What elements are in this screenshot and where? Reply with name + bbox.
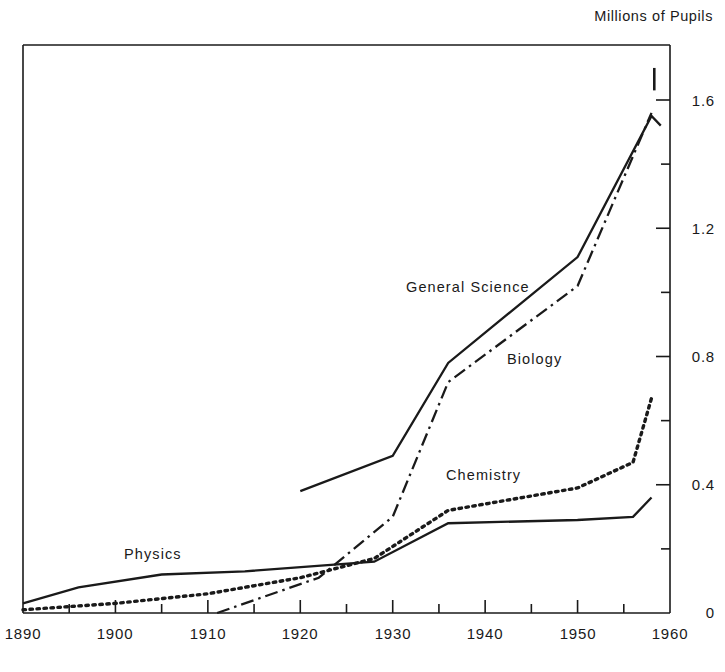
x-tick-label-1930: 1930	[375, 625, 412, 642]
x-tick-label-1900: 1900	[97, 625, 134, 642]
series-label-physics: Physics	[124, 546, 182, 562]
y-tick-label-1.6: 1.6	[692, 92, 715, 109]
chart-figure: Millions of Pupils 0 0.4 0.8 1.2 1.6 189…	[0, 0, 725, 672]
y-tick-label-1.2: 1.2	[692, 220, 715, 237]
x-tick-label-1890: 1890	[5, 625, 42, 642]
y-tick-label-0.4: 0.4	[692, 476, 715, 493]
x-tick-label-1920: 1920	[282, 625, 319, 642]
chart-series-group	[23, 68, 661, 613]
series-line-physics	[23, 498, 652, 604]
x-tick-label-1960: 1960	[652, 625, 689, 642]
series-label-biology: Biology	[507, 351, 562, 367]
x-tick-label-1950: 1950	[560, 625, 597, 642]
y-tick-label-0: 0	[706, 604, 715, 621]
series-label-general-science: General Science	[406, 279, 530, 295]
chart-axes	[23, 45, 670, 613]
series-label-chemistry: Chemistry	[446, 467, 521, 483]
series-line-biology	[217, 113, 651, 613]
series-line-chemistry	[23, 398, 652, 610]
x-tick-label-1940: 1940	[467, 625, 504, 642]
chart-plot-area	[0, 0, 725, 672]
x-tick-label-1910: 1910	[190, 625, 227, 642]
series-line-general-science	[300, 116, 660, 491]
y-tick-label-0.8: 0.8	[692, 348, 715, 365]
